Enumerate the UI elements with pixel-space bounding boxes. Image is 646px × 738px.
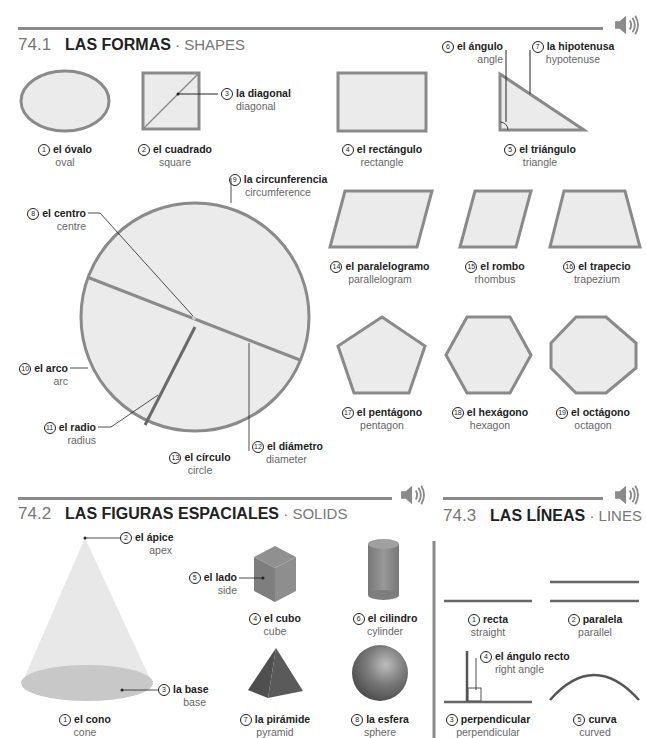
lines-diagram <box>0 0 646 738</box>
label-curved: 5curvacurved <box>555 713 635 738</box>
label-perpendicular: 3perpendicularperpendicular <box>443 713 533 738</box>
label-right-angle: 4el ángulo rectoright angle <box>480 650 570 676</box>
label-parallel: 2paralelaparallel <box>555 613 635 639</box>
label-straight: 1rectastraight <box>448 613 528 639</box>
